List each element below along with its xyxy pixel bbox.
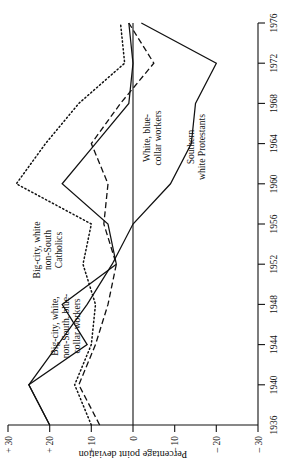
y-tick-label-20p: + 20 — [45, 436, 55, 453]
y-axis-ticks — [8, 425, 258, 432]
y-tick-label-30m: – 30 — [254, 436, 264, 454]
annotation-southern-line2: white Protestants — [196, 114, 207, 180]
x-axis-ticks — [258, 23, 265, 385]
annotation-southern-line1: Southern — [185, 129, 196, 164]
line-chart: + 30 + 20 + 10 0 – 10 – 20 – 30 Percenta… — [0, 0, 295, 463]
annotation-catholics: Big-city, white non-South Catholics — [31, 222, 64, 279]
annotation-bluecollar-line1: White, blue- — [141, 114, 152, 162]
x-axis: 1936 1940 1944 1948 1952 1956 1960 1964 … — [258, 13, 279, 434]
annotation-white-blue-collar: White, blue- collar workers — [141, 110, 163, 165]
annotation-catholics-line3: Catholics — [53, 232, 64, 269]
rotated-figure-wrapper: + 30 + 20 + 10 0 – 10 – 20 – 30 Percenta… — [0, 0, 295, 463]
y-axis-title: Percentage point deviation — [79, 449, 188, 460]
x-tick-label-1968: 1968 — [269, 94, 279, 113]
annotation-bluecollar-line2: collar workers — [152, 110, 163, 165]
x-tick-label-1960: 1960 — [269, 174, 279, 193]
x-tick-label-1964: 1964 — [269, 134, 279, 153]
y-tick-label-20m: – 20 — [212, 436, 222, 454]
y-tick-label-0: 0 — [129, 436, 139, 441]
x-tick-label-1976: 1976 — [269, 13, 279, 32]
y-axis: + 30 + 20 + 10 0 – 10 – 20 – 30 Percenta… — [4, 425, 264, 460]
x-tick-label-1948: 1948 — [269, 295, 279, 314]
x-tick-label-1936: 1936 — [269, 415, 279, 434]
annotation-bigcity-blue-collar: Big-city, white, non-South, blue- collar… — [49, 294, 82, 359]
x-tick-label-1944: 1944 — [269, 335, 279, 354]
annotation-bigcity-line2: non-South, blue- — [60, 294, 71, 359]
figure-canvas: + 30 + 20 + 10 0 – 10 – 20 – 30 Percenta… — [0, 0, 295, 463]
annotation-southern-protestants: Southern white Protestants — [185, 114, 207, 180]
series-line-bigcity-blue-collar — [29, 23, 133, 425]
chart-svg: + 30 + 20 + 10 0 – 10 – 20 – 30 Percenta… — [0, 0, 295, 463]
x-tick-label-1940: 1940 — [269, 375, 279, 394]
y-tick-label-30p: + 30 — [4, 436, 14, 453]
annotation-catholics-line2: non-South — [42, 230, 53, 270]
annotation-bigcity-line3: collar workers — [71, 298, 82, 353]
annotation-bigcity-line1: Big-city, white, — [49, 296, 60, 355]
x-tick-label-1952: 1952 — [269, 255, 279, 274]
x-tick-label-1956: 1956 — [269, 214, 279, 233]
annotation-catholics-line1: Big-city, white — [31, 222, 42, 279]
x-tick-label-1972: 1972 — [269, 54, 279, 73]
